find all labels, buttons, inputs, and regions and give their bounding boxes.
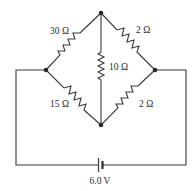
circuit-diagram: 6.0 V 30 Ω 2 Ω 10 Ω 15 Ω 2 Ω: [0, 0, 196, 191]
battery-icon: [99, 158, 103, 172]
left-node: [44, 68, 49, 73]
bottom-node: [99, 123, 104, 128]
resistor-2-ohm-bottom: [101, 70, 155, 125]
top-node: [99, 11, 104, 16]
resistor-2-ohm-top-label: 2 Ω: [136, 25, 150, 35]
resistor-10-ohm-label: 10 Ω: [109, 62, 128, 72]
resistor-30-ohm-label: 30 Ω: [50, 26, 69, 36]
battery-label: 6.0 V: [90, 176, 111, 186]
resistor-10-ohm: [98, 13, 104, 125]
resistor-2-ohm-bottom-label: 2 Ω: [139, 99, 153, 109]
resistor-15-ohm: [46, 70, 101, 125]
right-node: [153, 68, 158, 73]
resistor-30-ohm: [46, 13, 101, 70]
resistor-15-ohm-label: 15 Ω: [50, 99, 69, 109]
left-outer-wire: [16, 70, 98, 165]
right-outer-wire: [103, 70, 186, 165]
